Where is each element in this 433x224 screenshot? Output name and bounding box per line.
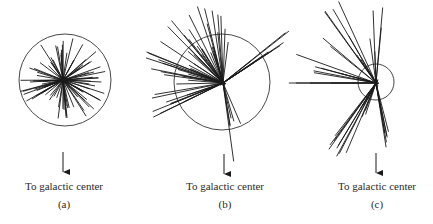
vector-line: [314, 73, 379, 84]
vector-line: [323, 38, 378, 84]
panel-a: [19, 34, 111, 172]
panel-b-vectors: [146, 7, 289, 162]
vector-line: [333, 9, 376, 84]
panel-a-label: (a): [44, 198, 84, 210]
vector-line: [155, 83, 223, 95]
panel-c-caption: To galactic center: [317, 180, 433, 192]
panel-a-vectors: [20, 39, 105, 119]
panel-b: [146, 7, 289, 175]
vector-line: [26, 79, 64, 101]
panel-c-label: (c): [357, 198, 397, 210]
vector-line: [339, 80, 378, 154]
vector-line: [376, 8, 383, 86]
vector-line: [337, 82, 377, 148]
panel-c: [289, 2, 394, 174]
vector-line: [171, 83, 224, 104]
vector-line: [221, 50, 273, 84]
panel-b-caption: To galactic center: [165, 180, 285, 192]
vector-line: [376, 82, 381, 108]
vector-line: [160, 82, 225, 113]
vector-line: [221, 31, 289, 85]
panel-b-label: (b): [205, 198, 245, 210]
vector-line: [335, 82, 377, 136]
panel-c-vectors: [289, 2, 389, 157]
panel-a-caption: To galactic center: [4, 180, 124, 192]
